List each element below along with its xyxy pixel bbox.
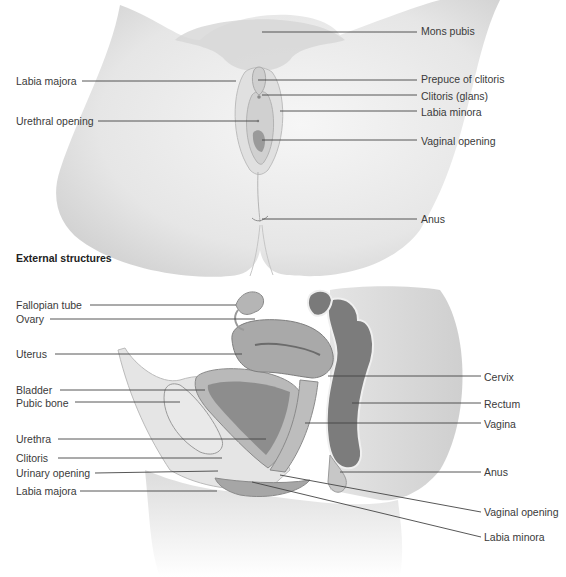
label-vagina: Vagina [484,418,516,430]
label-uterus: Uterus [16,348,47,360]
sagittal-illustration [118,286,463,577]
label-labia-minora-sagittal: Labia minora [484,531,545,543]
label-mons-pubis: Mons pubis [421,25,475,37]
label-anus-sagittal: Anus [484,466,508,478]
label-vaginal-opening-external: Vaginal opening [421,135,496,147]
label-urethra: Urethra [16,433,51,445]
label-rectum: Rectum [484,398,520,410]
label-clitoris-glans: Clitoris (glans) [421,90,488,102]
label-bladder: Bladder [16,384,52,396]
anatomy-figure: External structures Mons pubis Labia maj… [0,0,566,577]
label-clitoris: Clitoris [16,452,48,464]
label-anus-external: Anus [421,213,445,225]
label-prepuce-of-clitoris: Prepuce of clitoris [421,73,504,85]
label-fallopian-tube: Fallopian tube [16,299,82,311]
label-vaginal-opening-sagittal: Vaginal opening [484,506,559,518]
label-labia-majora-external: Labia majora [16,75,77,87]
label-urethral-opening: Urethral opening [16,115,94,127]
label-ovary: Ovary [16,313,44,325]
label-labia-minora-external: Labia minora [421,106,482,118]
label-labia-majora-sagittal: Labia majora [16,485,77,497]
label-cervix: Cervix [484,371,514,383]
label-urinary-opening: Urinary opening [16,467,90,479]
illustration-svg [0,0,566,577]
label-pubic-bone: Pubic bone [16,397,69,409]
section-title-external: External structures [16,252,112,264]
